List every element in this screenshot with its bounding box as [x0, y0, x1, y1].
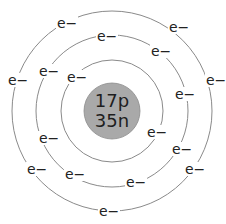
- electron-label-inner: e−: [66, 70, 88, 84]
- electron-label-outer: e−: [98, 204, 120, 218]
- electron-label-inner: e−: [146, 125, 168, 139]
- electron-label-middle: e−: [174, 87, 196, 101]
- nucleus-protons-label: 17p: [95, 90, 129, 111]
- electron-label-outer: e−: [184, 162, 206, 176]
- electron-label-outer: e−: [205, 73, 226, 87]
- electron-label-middle: e−: [96, 29, 118, 43]
- electron-label-middle: e−: [64, 167, 86, 181]
- electron-label-outer: e−: [56, 16, 78, 30]
- electron-label-middle: e−: [150, 44, 172, 58]
- electron-label-middle: e−: [38, 64, 60, 78]
- electron-label-middle: e−: [125, 175, 147, 189]
- electron-label-outer: e−: [26, 162, 48, 176]
- electron-label-outer: e−: [168, 20, 190, 34]
- electron-label-outer: e−: [7, 73, 29, 87]
- nucleus-neutrons-label: 35n: [95, 110, 129, 131]
- atom-diagram: 17p 35n e−e−e−e−e−e−e−e−e−e−e−e−e−e−e−e−…: [0, 0, 226, 224]
- electron-label-middle: e−: [38, 131, 60, 145]
- electron-label-middle: e−: [171, 142, 193, 156]
